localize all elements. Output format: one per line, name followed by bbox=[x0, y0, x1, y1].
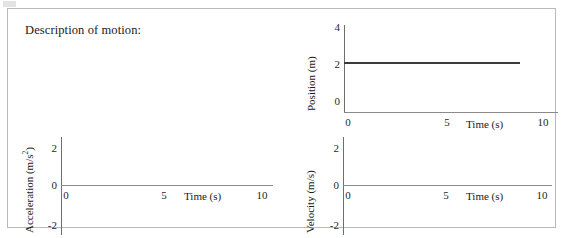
velocity-y-tick-minus-2: -2 bbox=[321, 220, 339, 231]
acceleration-y-axis-title: Acceleration (m/s2) bbox=[20, 147, 35, 233]
velocity-x-tick-10: 10 bbox=[533, 190, 551, 201]
position-x-axis-title: Time (s) bbox=[466, 119, 503, 130]
acceleration-x-tick-10: 10 bbox=[253, 190, 271, 201]
velocity-x-axis-title: Time (s) bbox=[466, 191, 503, 202]
velocity-x-tick-0: 0 bbox=[339, 190, 357, 201]
acceleration-y-tick-0: 0 bbox=[39, 180, 57, 191]
position-y-axis bbox=[344, 25, 345, 112]
acceleration-y-axis-title-suffix: ) bbox=[23, 147, 35, 151]
velocity-x-tick-5: 5 bbox=[437, 190, 455, 201]
position-x-tick-10: 10 bbox=[534, 117, 552, 128]
position-graph: 4 2 0 0 5 10 Time (s) Position (m) bbox=[338, 21, 558, 116]
acceleration-x-tick-5: 5 bbox=[155, 190, 173, 201]
acceleration-x-axis bbox=[61, 185, 273, 186]
position-x-tick-5: 5 bbox=[438, 117, 456, 128]
scan-artifact-mark bbox=[3, 1, 16, 7]
worksheet-frame: Description of motion: 4 2 0 0 5 10 Time… bbox=[7, 8, 556, 228]
acceleration-y-tick-2: 2 bbox=[39, 143, 57, 154]
acceleration-y-axis bbox=[61, 137, 62, 235]
description-of-motion-label: Description of motion: bbox=[25, 23, 141, 38]
position-x-tick-0: 0 bbox=[339, 117, 357, 128]
position-x-axis bbox=[344, 112, 558, 113]
velocity-y-axis-title: Velocity (m/s) bbox=[305, 170, 316, 233]
acceleration-x-tick-0: 0 bbox=[57, 190, 75, 201]
velocity-y-tick-2: 2 bbox=[321, 143, 339, 154]
velocity-y-tick-0: 0 bbox=[321, 180, 339, 191]
acceleration-y-axis-title-exponent: 2 bbox=[21, 151, 30, 155]
acceleration-graph: 2 0 -2 0 5 10 Time (s) Acceleration (m/s… bbox=[61, 137, 276, 237]
position-y-tick-2: 2 bbox=[322, 59, 340, 70]
acceleration-x-axis-title: Time (s) bbox=[184, 191, 221, 202]
acceleration-y-axis-title-prefix: Acceleration (m/s bbox=[23, 155, 35, 234]
velocity-graph: 2 0 -2 0 5 10 Time (s) Velocity (m/s) bbox=[343, 137, 558, 237]
position-y-axis-title: Position (m) bbox=[306, 56, 317, 111]
position-data-line bbox=[344, 62, 520, 64]
velocity-y-axis bbox=[343, 137, 344, 235]
position-y-tick-4: 4 bbox=[322, 22, 340, 33]
position-y-tick-0: 0 bbox=[322, 96, 340, 107]
acceleration-y-tick-minus-2: -2 bbox=[39, 220, 57, 231]
velocity-x-axis bbox=[343, 185, 552, 186]
